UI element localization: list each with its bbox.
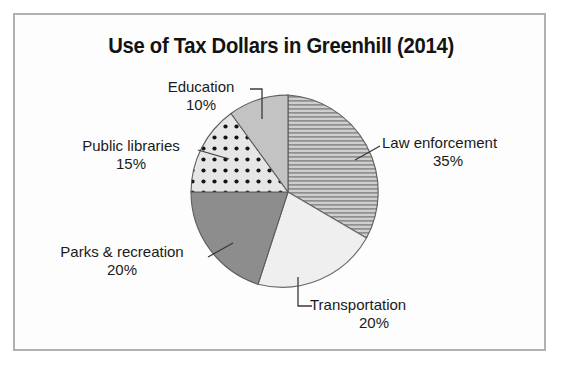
figure-container: Use of Tax Dollars in Greenhill (2014) bbox=[0, 0, 562, 368]
pie-label-education-name: Education bbox=[168, 78, 235, 95]
pie-label-transportation: Transportation 20% bbox=[310, 296, 470, 331]
pie-label-parks-recreation-name: Parks & recreation bbox=[60, 243, 183, 260]
pie-label-education: Education 10% bbox=[146, 78, 256, 113]
pie-label-public-libraries: Public libraries 15% bbox=[56, 137, 206, 172]
pie-label-law-enforcement-name: Law enforcement bbox=[382, 134, 497, 151]
pie-label-education-value: 10% bbox=[146, 96, 256, 114]
pie-label-law-enforcement: Law enforcement 35% bbox=[382, 134, 552, 169]
pie-label-public-libraries-name: Public libraries bbox=[82, 137, 180, 154]
pie-label-public-libraries-value: 15% bbox=[56, 155, 206, 173]
pie-label-transportation-name: Transportation bbox=[310, 296, 406, 313]
pie-label-law-enforcement-value: 35% bbox=[382, 152, 514, 170]
pie-label-parks-recreation: Parks & recreation 20% bbox=[32, 243, 212, 278]
pie-label-transportation-value: 20% bbox=[310, 314, 438, 332]
pie-chart bbox=[0, 0, 562, 368]
pie-label-parks-recreation-value: 20% bbox=[32, 261, 212, 279]
